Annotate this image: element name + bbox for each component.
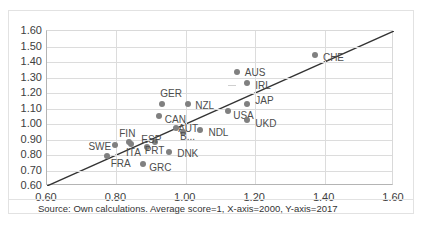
y-axis-tick-label: 0.70 — [6, 165, 42, 176]
gridline-horizontal — [47, 140, 392, 141]
data-point-jap[interactable] — [244, 101, 250, 107]
data-point-label-nzl: NZL — [195, 101, 214, 111]
y-axis-tick-label: 0.90 — [6, 134, 42, 145]
data-point-label-ger: GER — [160, 89, 182, 99]
gridline-horizontal — [47, 93, 392, 94]
gridline-horizontal — [47, 78, 392, 79]
gridline-horizontal — [47, 109, 392, 110]
data-point-label-ukd: UKD — [255, 119, 276, 129]
y-axis-tick-label: 1.50 — [6, 41, 42, 52]
data-point-usa[interactable] — [225, 108, 231, 114]
x-axis-tick-label: 1.00 — [160, 192, 210, 203]
data-point-nzl[interactable] — [185, 101, 191, 107]
gridline-horizontal — [47, 124, 392, 125]
x-axis-tick-label: 0.80 — [90, 192, 140, 203]
data-point-label-fra: FRA — [111, 159, 131, 169]
gridline-horizontal — [47, 171, 392, 172]
y-axis-tick-label: 1.40 — [6, 56, 42, 67]
data-point-fra[interactable] — [104, 153, 110, 159]
data-point-label-grc: GRC — [149, 163, 171, 173]
y-axis-tick-label: 0.60 — [6, 180, 42, 191]
data-point-can[interactable] — [156, 113, 162, 119]
y-axis-tick-label: 1.00 — [6, 118, 42, 129]
data-point-label-fin: FIN — [119, 129, 135, 139]
data-point-label-ndl: NDL — [208, 128, 228, 138]
chart-source-note: Source: Own calculations. Average score=… — [38, 203, 338, 215]
x-axis-tick-label: 1.60 — [368, 192, 418, 203]
y-axis-tick-label: 1.30 — [6, 72, 42, 83]
data-point-label-prt: PRT — [145, 146, 165, 156]
y-axis-tick-label: 0.80 — [6, 149, 42, 160]
data-point-label-jap: JAP — [255, 96, 273, 106]
data-point-che[interactable] — [312, 52, 318, 58]
y-axis-tick-label: 1.10 — [6, 103, 42, 114]
gridline-horizontal — [47, 47, 392, 48]
gridline-horizontal — [47, 155, 392, 156]
data-point-label-che: CHE — [323, 53, 344, 63]
data-point-aus[interactable] — [234, 69, 240, 75]
gridline-vertical — [186, 31, 187, 184]
x-axis-tick-label: 1.40 — [299, 192, 349, 203]
x-axis-tick-label: 1.20 — [229, 192, 279, 203]
chart-figure: 0.600.700.800.901.001.101.201.301.401.50… — [0, 0, 424, 233]
data-point-label-esp: ESP — [141, 135, 161, 145]
data-point-label-swe: SWE — [88, 142, 111, 152]
data-point-ger[interactable] — [159, 101, 165, 107]
decorative-tick-mark — [228, 85, 236, 86]
data-point-label-dnk: DNK — [177, 149, 198, 159]
x-axis-tick-label: 0.60 — [21, 192, 71, 203]
y-axis-tick-label: 1.20 — [6, 87, 42, 98]
footer-divider — [8, 199, 414, 200]
data-point-label-b: B... — [180, 132, 195, 142]
data-point-label-irl: IRL — [255, 81, 271, 91]
y-axis-tick-label: 1.60 — [6, 25, 42, 36]
data-point-irl[interactable] — [244, 80, 250, 86]
gridline-vertical — [255, 31, 256, 184]
data-point-label-aus: AUS — [245, 68, 266, 78]
data-point-label-ita: ITA — [126, 148, 141, 158]
